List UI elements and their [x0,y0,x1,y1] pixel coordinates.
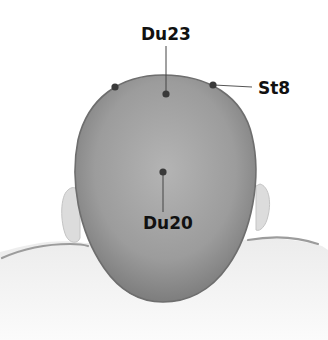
point-du20-marker[interactable] [159,168,166,175]
point-du23-marker[interactable] [162,90,169,97]
st8-leader-line [214,85,252,87]
label-du23: Du23 [141,24,191,44]
head-illustration [0,0,328,340]
point-st8-right-marker[interactable] [209,81,216,88]
label-du20: Du20 [143,213,193,233]
point-st8-left-marker[interactable] [111,83,118,90]
acupoint-diagram: Du23 St8 Du20 [0,0,328,340]
label-st8: St8 [258,78,290,98]
